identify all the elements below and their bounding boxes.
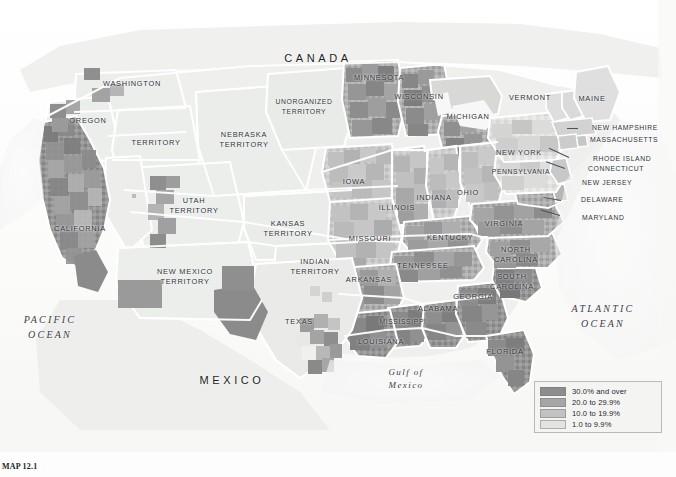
legend-swatch xyxy=(540,387,566,397)
figure-caption: MAP 12.1 xyxy=(2,462,37,471)
map-figure: CANADAMEXICOPACIFICOCEANATLANTICOCEANGul… xyxy=(0,0,676,452)
legend-swatch xyxy=(540,398,566,408)
map-page: CANADAMEXICOPACIFICOCEANATLANTICOCEANGul… xyxy=(0,0,676,477)
legend-label: 1.0 to 9.9% xyxy=(572,420,612,429)
map-legend: 30.0% and over20.0 to 29.9%10.0 to 19.9%… xyxy=(534,381,662,433)
legend-label: 20.0 to 29.9% xyxy=(572,398,620,407)
legend-label: 10.0 to 19.9% xyxy=(572,409,620,418)
legend-label: 30.0% and over xyxy=(572,387,627,396)
legend-swatch xyxy=(540,420,566,430)
legend-row: 20.0 to 29.9% xyxy=(540,397,656,408)
legend-swatch xyxy=(540,409,566,419)
legend-row: 1.0 to 9.9% xyxy=(540,419,656,430)
legend-row: 10.0 to 19.9% xyxy=(540,408,656,419)
legend-row: 30.0% and over xyxy=(540,386,656,397)
